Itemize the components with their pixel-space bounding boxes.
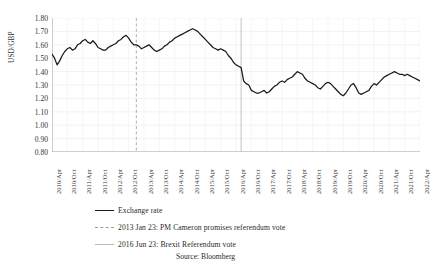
x-axis-tick-label: 2022/Apr	[423, 169, 430, 194]
x-axis-tick-label: 2015/Apr	[208, 169, 215, 194]
x-axis-tick-label: 2014/Oct	[193, 169, 200, 194]
legend-swatch-brexit-line	[95, 244, 114, 245]
y-axis-tick-label: 1.60	[35, 40, 48, 49]
x-axis-tick-label: 2011/Oct	[101, 170, 108, 194]
x-axis-tick-label: 2018/Apr	[300, 169, 307, 194]
y-axis-tick-label: 1.50	[35, 54, 48, 63]
x-axis-ticks: 2010/Apr2010/Oct2011/Apr2011/Oct2012/Apr…	[52, 154, 420, 198]
y-axis-tick-label: 1.30	[35, 81, 48, 90]
x-axis-tick-label: 2013/Apr	[147, 169, 154, 194]
y-axis-label: USD/GBP	[8, 31, 16, 63]
y-axis-tick-label: 0.80	[35, 148, 48, 157]
y-axis-tick-label: 1.20	[35, 94, 48, 103]
x-axis-tick-label: 2016/Oct	[254, 169, 261, 194]
x-axis-tick-label: 2020/Apr	[361, 169, 368, 194]
chart-legend: Exchange rate 2013 Jan 23: PM Cameron pr…	[95, 205, 345, 256]
legend-swatch-exchange-rate	[95, 210, 114, 211]
legend-label: Exchange rate	[118, 206, 163, 215]
x-axis-tick-label: 2014/Apr	[177, 169, 184, 194]
legend-label: 2013 Jan 23: PM Cameron promises referen…	[118, 223, 285, 232]
x-axis-tick-label: 2013/Oct	[162, 169, 169, 194]
x-axis-tick-label: 2012/Oct	[131, 169, 138, 194]
legend-item: 2013 Jan 23: PM Cameron promises referen…	[95, 222, 345, 232]
x-axis-tick-label: 2016/Apr	[239, 169, 246, 194]
y-axis-tick-label: 1.80	[35, 14, 48, 23]
x-axis-tick-label: 2019/Oct	[346, 169, 353, 194]
x-axis-tick-label: 2019/Apr	[331, 169, 338, 194]
x-axis-tick-label: 2010/Oct	[70, 169, 77, 194]
plot-area	[52, 18, 420, 152]
legend-swatch-cameron-line	[95, 227, 114, 228]
x-axis-tick-label: 2011/Apr	[85, 169, 92, 194]
x-axis-tick-label: 2015/Oct	[223, 169, 230, 194]
y-axis-ticks: 1.801.701.601.501.401.301.201.101.000.90…	[18, 0, 48, 268]
y-axis-tick-label: 1.40	[35, 67, 48, 76]
legend-item: Exchange rate	[95, 205, 345, 215]
y-axis-tick-label: 0.90	[35, 134, 48, 143]
x-axis-tick-label: 2017/Apr	[269, 169, 276, 194]
x-axis-tick-label: 2021/Oct	[407, 169, 414, 194]
x-axis-tick-label: 2010/Apr	[55, 169, 62, 194]
chart-container: USD/GBP 1.801.701.601.501.401.301.201.10…	[0, 0, 435, 268]
y-axis-tick-label: 1.10	[35, 107, 48, 116]
x-axis-tick-label: 2018/Oct	[315, 169, 322, 194]
legend-item: 2016 Jun 23: Brexit Referendum vote	[95, 239, 345, 249]
y-axis-tick-label: 1.00	[35, 121, 48, 130]
legend-label: 2016 Jun 23: Brexit Referendum vote	[118, 240, 236, 249]
x-axis-tick-label: 2021/Apr	[392, 169, 399, 194]
exchange-rate-line-chart	[52, 18, 420, 152]
y-axis-tick-label: 1.70	[35, 27, 48, 36]
x-axis-tick-label: 2017/Oct	[285, 169, 292, 194]
source-note: Source: Bloomberg	[176, 252, 235, 261]
x-axis-tick-label: 2012/Apr	[116, 169, 123, 194]
x-axis-tick-label: 2020/Oct	[377, 169, 384, 194]
